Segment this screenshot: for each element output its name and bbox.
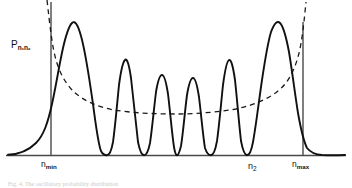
x-axis-label: n2 bbox=[248, 162, 257, 173]
y-axis-label-subscript: n₁n₂ bbox=[18, 44, 31, 51]
y-axis-label-base: P bbox=[11, 39, 18, 50]
nmax-tick-label: nmax bbox=[292, 160, 309, 170]
x-axis-label-subscript: 2 bbox=[253, 165, 257, 172]
figure-container: Pn₁n₂ nmin nmax n2 Fig. 4. The oscillato… bbox=[0, 0, 352, 188]
nmax-label-subscript: max bbox=[297, 163, 309, 170]
oscillatory-probability-curve bbox=[8, 22, 345, 155]
figure-caption: Fig. 4. The oscillatory probability dist… bbox=[8, 181, 118, 187]
nmin-label-subscript: min bbox=[46, 163, 57, 170]
nmin-tick-label: nmin bbox=[41, 160, 57, 170]
y-axis-label: Pn₁n₂ bbox=[11, 40, 30, 52]
